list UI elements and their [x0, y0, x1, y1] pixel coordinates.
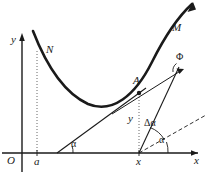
point-a-label: A	[133, 75, 140, 86]
x-axis-label: x	[194, 155, 199, 166]
curve-end-label: M	[172, 22, 181, 33]
y-axis	[19, 33, 25, 172]
angle-arc-phi	[173, 64, 177, 73]
angle-delta-alpha-label: Δα	[144, 118, 156, 128]
y-axis-arrowhead	[19, 33, 25, 41]
angle-alpha-right-label: α	[159, 135, 164, 145]
angle-alpha-left-label: α	[71, 139, 76, 149]
angle-arc-alpha-right	[167, 142, 169, 153]
ordinate-label: y	[128, 113, 133, 124]
tangent-line	[112, 70, 182, 114]
curve-start-label: N	[46, 44, 53, 55]
x-tick-a-label: a	[34, 156, 40, 167]
angle-phi-label: Φ	[176, 52, 183, 62]
x-tick-x-label: x	[136, 156, 141, 167]
origin-label: O	[7, 155, 15, 166]
x-axis	[2, 150, 198, 156]
math-diagram: y x O a x N M A y α α Δα Φ	[0, 0, 209, 176]
y-axis-label: y	[11, 34, 16, 45]
point-a-marker	[137, 91, 141, 95]
